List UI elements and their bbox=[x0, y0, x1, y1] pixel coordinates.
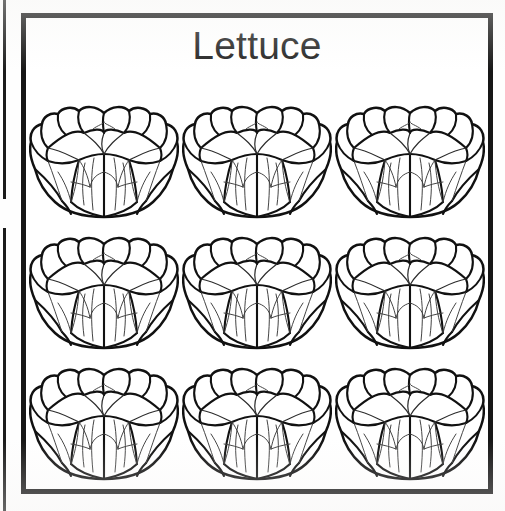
grid-cell bbox=[181, 227, 334, 358]
lettuce-card: Lettuce bbox=[21, 13, 493, 494]
lettuce-head-icon bbox=[182, 233, 332, 351]
grid-cell bbox=[333, 357, 486, 488]
card-content-area: Lettuce bbox=[26, 18, 488, 489]
lettuce-head-icon bbox=[29, 233, 179, 351]
grid-cell bbox=[333, 96, 486, 227]
grid-cell bbox=[333, 227, 486, 358]
grid-cell bbox=[28, 227, 181, 358]
lettuce-head-icon bbox=[335, 102, 485, 220]
grid-cell bbox=[28, 357, 181, 488]
lettuce-head-icon bbox=[335, 233, 485, 351]
lettuce-head-icon bbox=[182, 102, 332, 220]
lettuce-head-icon bbox=[335, 364, 485, 482]
grid-cell bbox=[181, 357, 334, 488]
lettuce-head-icon bbox=[29, 364, 179, 482]
worksheet-page: Lettuce bbox=[0, 0, 505, 511]
lettuce-item-grid bbox=[28, 96, 486, 488]
adjacent-card-edge-upper bbox=[3, 0, 6, 199]
lettuce-head-icon bbox=[29, 102, 179, 220]
lettuce-head-icon bbox=[182, 364, 332, 482]
grid-cell bbox=[28, 96, 181, 227]
page-title: Lettuce bbox=[26, 26, 488, 67]
adjacent-card-edge-lower bbox=[3, 228, 6, 511]
grid-cell bbox=[181, 96, 334, 227]
